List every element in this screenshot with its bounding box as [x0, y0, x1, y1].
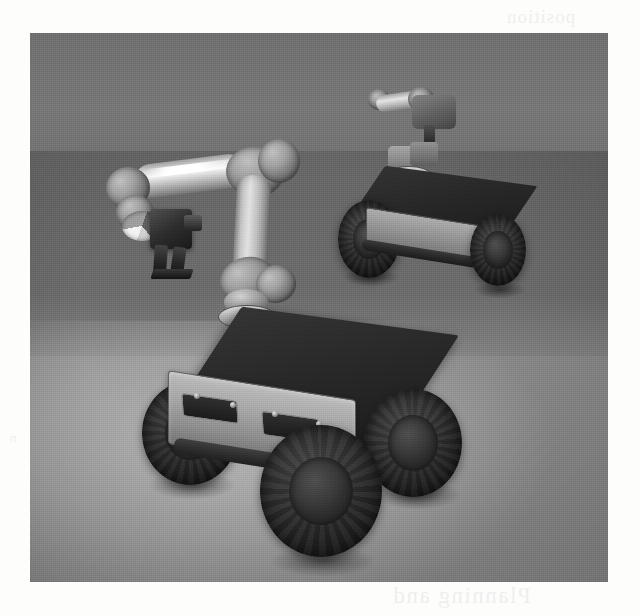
chassis-bolt — [230, 402, 236, 408]
chassis-bolt — [272, 411, 278, 417]
bleed-through-text-left: n — [10, 430, 17, 446]
bleed-through-text-top: position — [506, 6, 575, 28]
gripper-knuckle — [184, 215, 202, 231]
wheel — [260, 425, 382, 557]
simulation-viewport — [30, 33, 608, 582]
bleed-through-text-bottom: Planning and — [392, 583, 531, 609]
scanned-page: position Planning and n — [0, 0, 640, 616]
arm-housing — [412, 95, 456, 129]
back-wall — [30, 33, 608, 153]
arm-joint-cap — [258, 139, 300, 183]
foreground-robot — [110, 153, 450, 563]
wheel — [470, 214, 526, 286]
chassis-bolt — [194, 393, 200, 399]
floating-arm-fragment — [360, 73, 470, 143]
gripper-finger-pad — [150, 269, 193, 279]
